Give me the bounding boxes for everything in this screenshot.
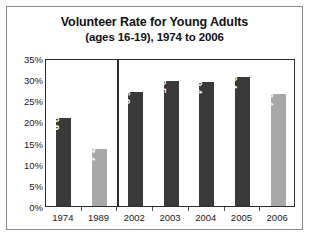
y-axis-tick-label: 25% [9,97,43,106]
x-axis-tick-mark [224,207,225,211]
bar: 26.4 [271,94,286,206]
x-axis-tick-mark [116,207,117,211]
bar: 20.9 [56,118,71,206]
x-axis-tick-mark [259,207,260,211]
plot-inner: 20.913.426.929.529.430.426.4 [46,60,294,206]
x-axis-category-label: 2006 [259,212,295,224]
bar-value-label: 29.4 [199,82,207,94]
bar: 26.9 [128,92,143,206]
x-axis-category-label: 2002 [116,212,152,224]
y-axis-tick-label: 0% [9,203,43,212]
x-axis-category-label: 2004 [188,212,224,224]
y-axis-tick-label: 5% [9,181,43,190]
bar: 29.5 [164,81,179,206]
x-axis-tick-mark [81,207,82,211]
bar-value-label: 29.5 [164,81,172,93]
plot-area: 20.913.426.929.529.430.426.4 [45,59,295,207]
x-axis-category-label: 1974 [45,212,81,224]
y-axis-tick-label: 35% [9,55,43,64]
bar-value-label: 13.4 [92,149,100,161]
x-axis-category-labels: 1974198920022003200420052006 [45,212,295,226]
y-axis-tick-label: 30% [9,76,43,85]
bar-value-label: 26.4 [271,94,279,106]
x-axis-category-label: 1989 [81,212,117,224]
chart-title: Volunteer Rate for Young Adults [7,15,302,30]
bar: 29.4 [199,82,214,206]
x-axis-category-label: 2005 [224,212,260,224]
y-axis-tick-labels: 0%5%10%15%20%25%30%35% [7,59,43,207]
x-axis-tick-marks [45,207,295,211]
group-divider-line [117,60,118,206]
bar: 13.4 [92,149,107,206]
chart-figure: Volunteer Rate for Young Adults (ages 16… [6,6,303,230]
chart-title-block: Volunteer Rate for Young Adults (ages 16… [7,15,302,44]
bar: 30.4 [235,77,250,206]
bar-value-label: 26.9 [128,92,136,104]
bar-value-label: 30.4 [235,77,243,89]
x-axis-tick-mark [152,207,153,211]
x-axis-category-label: 2003 [152,212,188,224]
y-axis-tick-label: 15% [9,139,43,148]
bar-value-label: 20.9 [56,118,64,130]
y-axis-tick-label: 20% [9,118,43,127]
x-axis-tick-mark [188,207,189,211]
chart-subtitle: (ages 16-19), 1974 to 2006 [7,30,302,44]
y-axis-tick-label: 10% [9,160,43,169]
